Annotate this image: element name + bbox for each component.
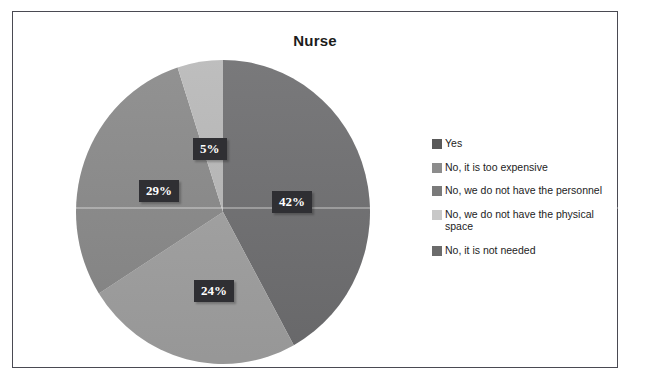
- legend-swatch-icon: [432, 139, 442, 149]
- legend-item-label: No, it is not needed: [445, 244, 535, 257]
- legend-item-label: No, it is too expensive: [445, 161, 548, 174]
- legend-item[interactable]: No, it is not needed: [432, 244, 612, 257]
- pie-svg: [73, 59, 373, 365]
- legend-item[interactable]: No, we do not have the personnel: [432, 184, 612, 197]
- legend-item[interactable]: Yes: [432, 137, 612, 150]
- pie-data-label-yes: 42%: [272, 191, 312, 213]
- figure-root: Nurse 42% 29% 5% 24% YesNo, it is too ex…: [0, 0, 649, 378]
- legend-swatch-icon: [432, 163, 442, 173]
- legend-item-label: Yes: [445, 137, 462, 150]
- pie-data-label-personnel: 29%: [139, 180, 179, 202]
- pie-data-label-too-expensive: 24%: [194, 280, 234, 302]
- chart-title: Nurse: [13, 32, 617, 49]
- chart-legend: YesNo, it is too expensiveNo, we do not …: [432, 137, 612, 267]
- legend-item[interactable]: No, we do not have the physical space: [432, 208, 612, 233]
- legend-swatch-icon: [432, 210, 442, 220]
- legend-swatch-icon: [432, 246, 442, 256]
- chart-frame: Nurse 42% 29% 5% 24% YesNo, it is too ex…: [12, 11, 618, 368]
- legend-swatch-icon: [432, 186, 442, 196]
- pie-data-label-physical-space: 5%: [193, 138, 227, 160]
- legend-item[interactable]: No, it is too expensive: [432, 161, 612, 174]
- pie-shading-overlay: [76, 60, 370, 364]
- legend-item-label: No, we do not have the personnel: [445, 184, 602, 197]
- legend-item-label: No, we do not have the physical space: [445, 208, 605, 233]
- pie-chart: [73, 59, 373, 365]
